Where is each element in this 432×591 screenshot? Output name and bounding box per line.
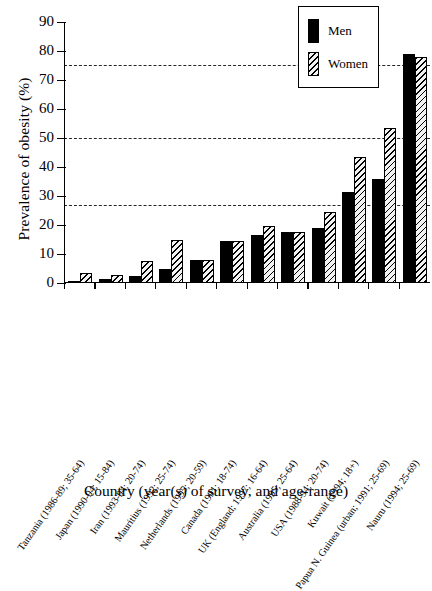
y-tick-label: 60 bbox=[39, 100, 54, 117]
bar-men bbox=[129, 276, 141, 283]
y-tick-label: 70 bbox=[39, 71, 54, 88]
y-tick-label: 40 bbox=[39, 158, 54, 175]
bar-group bbox=[187, 22, 217, 283]
bar-women bbox=[111, 275, 123, 283]
y-tick-label: 80 bbox=[39, 42, 54, 59]
y-axis-title: Prevalence of obesity (%) bbox=[15, 29, 33, 289]
bar-women bbox=[354, 157, 366, 283]
x-axis-title: Country (year(s) of survey, and age-rang… bbox=[0, 482, 432, 500]
x-axis-category-labels: Tanzania (1986-89; 35-64)Japan (1990-94;… bbox=[64, 288, 430, 468]
bar-women bbox=[202, 260, 214, 283]
bar-women bbox=[141, 261, 153, 283]
y-tick-label: 0 bbox=[47, 274, 55, 291]
y-tick-label: 10 bbox=[39, 245, 54, 262]
bar-men bbox=[68, 281, 80, 283]
legend-swatch-men-icon bbox=[308, 19, 319, 43]
legend-label-men: Men bbox=[328, 23, 352, 39]
bar-women bbox=[171, 240, 183, 284]
legend-item-women: Women bbox=[308, 52, 368, 76]
bar-group bbox=[126, 22, 156, 283]
bar-group bbox=[400, 22, 430, 283]
bar-men bbox=[99, 279, 111, 283]
bar-group bbox=[248, 22, 278, 283]
legend-swatch-women-icon bbox=[308, 52, 319, 76]
bar-men bbox=[281, 232, 293, 283]
bar-women bbox=[324, 212, 336, 283]
bar-men bbox=[312, 228, 324, 283]
legend-item-men: Men bbox=[308, 19, 352, 43]
y-tick-label: 50 bbox=[39, 129, 54, 146]
bar-group bbox=[156, 22, 186, 283]
bar-women bbox=[415, 57, 427, 283]
bar-women bbox=[384, 128, 396, 283]
chart-legend: Men Women bbox=[298, 6, 379, 88]
bar-women bbox=[293, 232, 305, 283]
bar-men bbox=[251, 235, 263, 283]
bar-men bbox=[372, 179, 384, 283]
bar-men bbox=[220, 241, 232, 283]
y-tick-label: 30 bbox=[39, 187, 54, 204]
bar-women bbox=[263, 226, 275, 283]
bar-men bbox=[403, 54, 415, 283]
y-tick-label: 90 bbox=[39, 13, 54, 30]
bar-women bbox=[232, 241, 244, 283]
bar-group bbox=[95, 22, 125, 283]
bar-men bbox=[190, 260, 202, 283]
bar-group bbox=[217, 22, 247, 283]
bar-group bbox=[65, 22, 95, 283]
y-tick-label: 20 bbox=[39, 216, 54, 233]
bar-men bbox=[159, 269, 171, 284]
legend-label-women: Women bbox=[328, 56, 368, 72]
bar-men bbox=[342, 192, 354, 283]
bar-women bbox=[80, 273, 92, 283]
